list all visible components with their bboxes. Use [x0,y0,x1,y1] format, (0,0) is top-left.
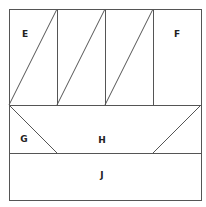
diagonal-g [9,105,57,153]
quilt-block-diagram: E F G H J [0,0,206,207]
diagonal-h-right [153,105,201,153]
diagonal-2 [57,9,105,105]
diagonal-1 [9,9,57,105]
label-g: G [20,134,27,144]
label-h: H [98,135,106,145]
diagonal-3 [105,9,153,105]
label-j: J [99,170,103,180]
label-e: E [22,29,28,39]
label-f: F [174,29,180,39]
